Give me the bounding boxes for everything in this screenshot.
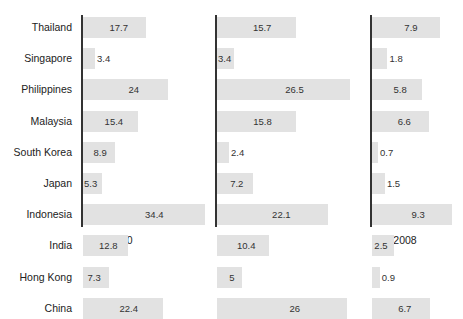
bar: [217, 79, 350, 100]
bar-value-label: 24: [129, 79, 140, 100]
bar-value-label: 15.7: [253, 17, 272, 38]
bar-value-label: 34.4: [145, 204, 164, 225]
bar-value-label: 6.7: [398, 298, 411, 319]
bar-value-label: 1.5: [387, 173, 400, 194]
category-label: Japan: [0, 176, 72, 190]
bar-value-label: 10.4: [237, 235, 256, 256]
category-label: Thailand: [0, 20, 72, 34]
bar: [372, 142, 378, 163]
bar-value-label: 22.4: [120, 298, 139, 319]
bar: [217, 298, 347, 319]
category-label: South Korea: [0, 145, 72, 159]
bar-value-label: 26: [289, 298, 300, 319]
bar-value-label: 7.2: [230, 173, 243, 194]
category-label: Singapore: [0, 51, 72, 65]
bar: [217, 142, 229, 163]
bar-value-label: 7.3: [88, 267, 101, 288]
bar: [83, 48, 95, 69]
bar-value-label: 0.9: [382, 267, 395, 288]
category-label: Philippines: [0, 82, 72, 96]
category-label: India: [0, 238, 72, 252]
panel-2004: 2004 15.73.426.515.82.47.222.110.4526: [215, 0, 355, 255]
bar-value-label: 8.9: [94, 142, 107, 163]
bar: [83, 204, 205, 225]
category-label: Indonesia: [0, 207, 72, 221]
bar-value-label: 22.1: [272, 204, 291, 225]
bar: [372, 48, 387, 69]
bar-value-label: 15.4: [105, 111, 124, 132]
bar: [372, 173, 385, 194]
category-labels: ThailandSingaporePhilippinesMalaysiaSout…: [0, 0, 72, 255]
bar-value-label: 9.3: [412, 204, 425, 225]
bar: [83, 79, 168, 100]
panel-2008: 2008 7.91.85.86.60.71.59.32.50.96.7: [370, 0, 463, 255]
bar-value-label: 12.8: [99, 235, 118, 256]
category-label: China: [0, 301, 72, 315]
bar: [372, 267, 380, 288]
bar-value-label: 6.6: [398, 111, 411, 132]
bar-value-label: 15.8: [253, 111, 272, 132]
bar-value-label: 3.4: [218, 48, 231, 69]
panel-2000: 2000 17.73.42415.48.95.334.412.87.322.4: [81, 0, 211, 255]
bar-value-label: 17.7: [110, 17, 129, 38]
category-label: Hong Kong: [0, 270, 72, 284]
bar-value-label: 5.8: [394, 79, 407, 100]
bar-value-label: 1.8: [389, 48, 402, 69]
bar-value-label: 26.5: [285, 79, 304, 100]
category-label: Malaysia: [0, 114, 72, 128]
bar-value-label: 2.5: [374, 235, 387, 256]
bar-value-label: 5: [229, 267, 234, 288]
bar-value-label: 5.3: [84, 173, 97, 194]
bar-value-label: 2.4: [231, 142, 244, 163]
bar-value-label: 0.7: [380, 142, 393, 163]
bar-value-label: 7.9: [404, 17, 417, 38]
bar-value-label: 3.4: [97, 48, 110, 69]
